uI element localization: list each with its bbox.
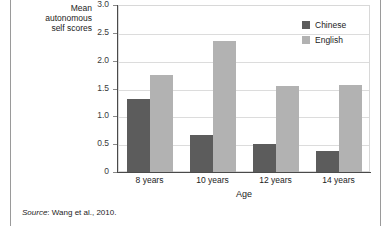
bar-english-10-years bbox=[213, 41, 236, 172]
legend-swatch-chinese bbox=[302, 21, 310, 29]
y-axis-title-line-2: autonomous bbox=[14, 13, 92, 23]
y-tick-label: 0 bbox=[83, 167, 109, 176]
y-axis-title-line-3: self scores bbox=[14, 23, 92, 33]
y-tick-label: 1.0 bbox=[83, 111, 109, 120]
y-tick-mark bbox=[113, 33, 117, 34]
source-note-text: : Wang et al., 2010. bbox=[47, 208, 116, 217]
y-axis-title-line-1: Mean bbox=[14, 3, 92, 13]
bar-chinese-14-years bbox=[316, 151, 339, 172]
legend-item: English bbox=[302, 33, 346, 46]
y-tick-mark bbox=[113, 89, 117, 90]
y-tick-label: 3.0 bbox=[83, 0, 109, 9]
x-axis-title: Age bbox=[118, 189, 370, 199]
y-tick-mark bbox=[113, 172, 117, 173]
legend-swatch-english bbox=[302, 36, 310, 44]
y-tick-label: 2.0 bbox=[83, 56, 109, 65]
figure-border-right bbox=[380, 0, 381, 226]
legend-label: English bbox=[315, 35, 343, 45]
legend-label: Chinese bbox=[315, 20, 346, 30]
chart-legend: ChineseEnglish bbox=[302, 18, 346, 48]
x-axis-line bbox=[117, 172, 371, 173]
source-note-lead: Source bbox=[22, 208, 47, 217]
x-tick-label: 10 years bbox=[183, 175, 243, 185]
y-tick-mark bbox=[113, 5, 117, 6]
bar-chinese-8-years bbox=[127, 99, 150, 172]
bar-english-12-years bbox=[276, 86, 299, 172]
y-tick-label: 2.5 bbox=[83, 28, 109, 37]
x-tick-label: 14 years bbox=[309, 175, 369, 185]
y-tick-label: 0.5 bbox=[83, 139, 109, 148]
bar-chinese-12-years bbox=[253, 144, 276, 172]
x-tick-label: 8 years bbox=[120, 175, 180, 185]
y-tick-label: 1.5 bbox=[83, 84, 109, 93]
y-tick-mark bbox=[113, 116, 117, 117]
y-tick-mark bbox=[113, 144, 117, 145]
figure-border-left bbox=[10, 0, 11, 226]
bar-chinese-10-years bbox=[190, 135, 213, 172]
y-tick-mark bbox=[113, 61, 117, 62]
figure-container: Mean autonomous self scores 00.51.01.52.… bbox=[0, 0, 390, 226]
x-tick-label: 12 years bbox=[246, 175, 306, 185]
legend-item: Chinese bbox=[302, 18, 346, 31]
bar-english-8-years bbox=[150, 75, 173, 172]
bar-english-14-years bbox=[339, 85, 362, 172]
source-note: Source: Wang et al., 2010. bbox=[22, 208, 116, 217]
y-axis-title: Mean autonomous self scores bbox=[14, 3, 92, 34]
